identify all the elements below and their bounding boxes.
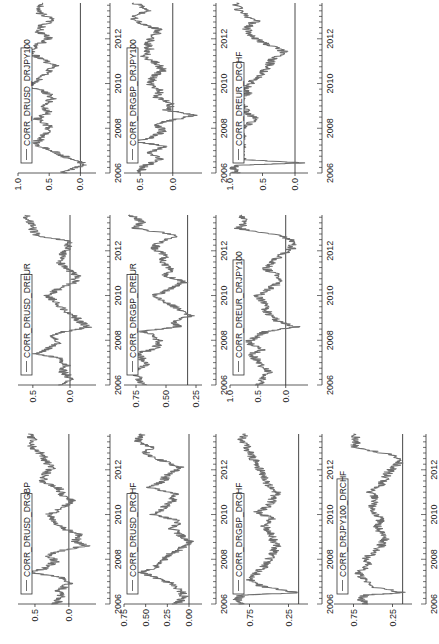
- y-axis: 0.50.0: [18, 385, 96, 403]
- x-tick-label: 2008: [113, 118, 123, 138]
- x-tick-label: 2012: [325, 241, 335, 261]
- legend-label: CORR_DREUR_DRJPY100: [234, 251, 244, 358]
- line-chart: 0.750.252006200820102012CORR_DRJPY100_DR…: [334, 424, 439, 604]
- x-tick-label: 2010: [113, 505, 123, 525]
- x-axis: 2006200820102012: [317, 434, 335, 614]
- y-tick-label: 0.50: [141, 609, 151, 627]
- y-tick-label: 0.5: [44, 178, 54, 191]
- legend: CORR_DRUSD_DRGBP: [21, 482, 32, 594]
- x-tick-label: 2008: [113, 330, 123, 350]
- x-tick-label: 2008: [113, 549, 123, 569]
- y-tick-label: 0.25: [162, 609, 172, 627]
- x-tick-label: 2010: [325, 74, 335, 94]
- y-axis: 1.00.50.0: [225, 385, 308, 403]
- line-chart: 0.50.02006200820102012CORR_DRGBP_DRJPY10…: [124, 0, 238, 173]
- line-chart: 1.00.50.02006200820102012CORR_DREUR_DRJP…: [230, 205, 344, 385]
- legend: CORR_DRUSD_DREUR: [21, 263, 32, 375]
- x-tick-label: 2010: [219, 505, 229, 525]
- x-tick-label: 2012: [113, 241, 123, 261]
- line-chart: 0.750.500.250.002006200820102012CORR_DRU…: [124, 424, 238, 604]
- legend-label: CORR_DRJPY100_DRCHF: [338, 471, 348, 577]
- legend-label: CORR_DRUSD_DRCHF: [128, 483, 138, 577]
- legend: CORR_DRJPY100_DRCHF: [337, 471, 348, 594]
- x-tick-label: 2012: [219, 241, 229, 261]
- y-tick-label: 0.00: [184, 609, 194, 627]
- y-axis: 1.00.50.0: [13, 173, 96, 191]
- line-chart: 0.50.02006200820102012CORR_DRUSD_DRGBP: [18, 424, 132, 604]
- series-line: [131, 3, 197, 173]
- legend: CORR_DREUR_DRCHF: [233, 52, 244, 163]
- x-tick-label: 2012: [219, 29, 229, 49]
- y-tick-label: 0.5: [135, 178, 145, 191]
- x-tick-label: 2008: [325, 330, 335, 350]
- y-axis: 0.50.0: [124, 173, 202, 191]
- y-tick-label: 0.75: [119, 609, 129, 627]
- y-tick-label: 0.5: [30, 609, 40, 622]
- legend: CORR_DRGBP_DREUR: [127, 263, 138, 375]
- x-axis: 2006200820102012: [211, 3, 229, 183]
- x-axis: 2006200820102012: [317, 3, 335, 183]
- series-line: [129, 215, 195, 385]
- y-tick-label: 0.50: [161, 390, 171, 408]
- x-tick-label: 2012: [219, 460, 229, 480]
- x-tick-label: 2006: [113, 375, 123, 395]
- legend-label: CORR_DREUR_DRCHF: [234, 52, 244, 146]
- x-tick-label: 2008: [325, 118, 335, 138]
- x-tick-label: 2012: [429, 460, 439, 480]
- x-axis: 2006200820102012: [317, 215, 335, 395]
- y-tick-label: 0.0: [168, 178, 178, 191]
- y-tick-label: 0.75: [131, 390, 141, 408]
- x-axis: 2006200820102012: [211, 434, 229, 614]
- x-tick-label: 2010: [113, 286, 123, 306]
- series-line: [24, 215, 92, 385]
- y-tick-label: 0.75: [245, 609, 255, 627]
- x-tick-label: 2006: [325, 375, 335, 395]
- y-tick-label: 0.0: [290, 178, 300, 191]
- y-tick-label: 0.25: [284, 609, 294, 627]
- y-tick-label: 0.5: [253, 390, 263, 403]
- legend-label: CORR_DRGBP_DRJPY100: [128, 39, 138, 146]
- y-axis: 1.00.50.0: [225, 173, 308, 191]
- y-tick-label: 0.0: [64, 609, 74, 622]
- x-axis: 2006200820102012: [105, 3, 123, 183]
- line-chart: 0.750.252006200820102012CORR_DRGBP_DRCHF: [230, 424, 344, 604]
- line-chart: 1.00.50.02006200820102012CORR_DRUSD_DRJP…: [18, 0, 132, 173]
- line-chart: 0.50.02006200820102012CORR_DRUSD_DREUR: [18, 205, 132, 385]
- x-axis: 2006200820102012: [421, 434, 439, 614]
- y-tick-label: 0.0: [75, 178, 85, 191]
- series-line: [351, 434, 405, 604]
- y-tick-label: 1.0: [225, 178, 235, 191]
- y-tick-label: 0.75: [349, 609, 359, 627]
- legend: CORR_DRUSD_DRJPY100: [21, 39, 32, 163]
- x-tick-label: 2008: [219, 330, 229, 350]
- legend-label: CORR_DRUSD_DRJPY100: [22, 39, 32, 146]
- y-axis: 0.50.0: [18, 604, 96, 622]
- y-tick-label: 1.0: [225, 390, 235, 403]
- x-tick-label: 2006: [429, 594, 439, 614]
- x-axis: 2006200820102012: [211, 215, 229, 395]
- legend-label: CORR_DRUSD_DREUR: [22, 263, 32, 358]
- series-line: [135, 434, 194, 604]
- x-tick-label: 2006: [325, 163, 335, 183]
- y-tick-label: 1.0: [13, 178, 23, 191]
- x-tick-label: 2008: [429, 549, 439, 569]
- legend: CORR_DRGBP_DRJPY100: [127, 39, 138, 163]
- y-axis: 0.750.500.250.00: [119, 604, 202, 627]
- y-tick-label: 0.0: [281, 390, 291, 403]
- x-axis: 2006200820102012: [105, 434, 123, 614]
- x-tick-label: 2010: [219, 286, 229, 306]
- legend-label: CORR_DRUSD_DRGBP: [22, 482, 32, 577]
- x-tick-label: 2010: [325, 286, 335, 306]
- legend: CORR_DREUR_DRJPY100: [233, 251, 244, 375]
- figure-canvas: 0.50.02006200820102012CORR_DRUSD_DRGBP0.…: [0, 0, 439, 644]
- series-line: [26, 3, 86, 173]
- y-axis: 0.750.500.25: [124, 385, 202, 408]
- series-line: [27, 434, 90, 604]
- y-axis: 0.750.25: [334, 604, 412, 627]
- x-tick-label: 2012: [325, 29, 335, 49]
- legend: CORR_DRUSD_DRCHF: [127, 483, 138, 594]
- x-tick-label: 2012: [113, 29, 123, 49]
- y-axis: 0.750.25: [230, 604, 308, 627]
- line-chart: 1.00.50.02006200820102012CORR_DREUR_DRCH…: [230, 0, 344, 173]
- line-chart: 0.750.500.252006200820102012CORR_DRGBP_D…: [124, 205, 238, 385]
